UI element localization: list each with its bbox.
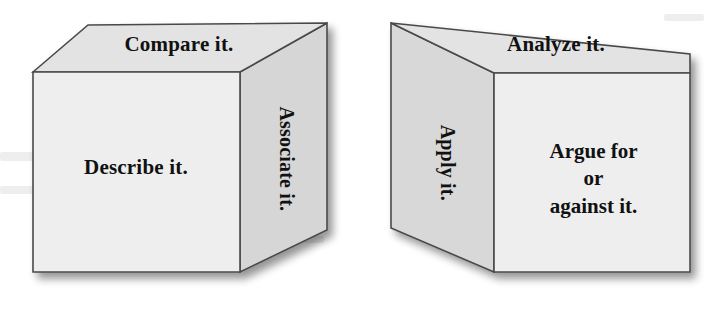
left-cube-top-label: Compare it. bbox=[104, 32, 254, 57]
left-cube-right-label: Associate it. bbox=[274, 79, 298, 239]
cube-figure: Compare it. Describe it. Associate it. A… bbox=[0, 0, 720, 310]
right-cube-top-label: Analyze it. bbox=[481, 32, 631, 57]
left-cube-front-label: Describe it. bbox=[56, 155, 216, 180]
right-cube-front-label-line-2: or bbox=[506, 165, 681, 192]
right-cube-front-label: Argue for or against it. bbox=[506, 138, 681, 220]
right-cube-left-label: Apply it. bbox=[435, 88, 459, 238]
right-cube-front-label-line-3: against it. bbox=[506, 193, 681, 220]
right-cube-front-label-line-1: Argue for bbox=[506, 138, 681, 165]
